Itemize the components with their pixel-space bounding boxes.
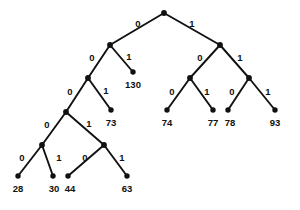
leaf-value-label: 30 xyxy=(49,184,60,194)
edge-bit-label: 0 xyxy=(89,53,94,63)
leaf-value-label: 93 xyxy=(270,118,281,128)
tree-edge xyxy=(220,45,249,78)
leaf-value-label: 74 xyxy=(162,118,173,128)
leaf-value-label: 44 xyxy=(65,184,76,194)
edge-bit-label: 0 xyxy=(135,19,140,29)
edge-bit-label: 0 xyxy=(169,87,174,97)
edge-bit-label: 1 xyxy=(126,52,131,62)
edge-bit-label: 1 xyxy=(237,53,242,63)
edge-bit-label: 1 xyxy=(56,153,61,163)
edge-bit-label: 1 xyxy=(189,19,194,29)
leaf-value-label: 78 xyxy=(225,118,236,128)
tree-leaf-node xyxy=(108,107,113,112)
leaf-value-label: 63 xyxy=(122,184,133,194)
tree-leaf-node xyxy=(225,107,230,112)
edge-bit-label: 1 xyxy=(103,86,108,96)
tree-leaf-node xyxy=(210,107,215,112)
tree-internal-node xyxy=(85,75,91,81)
tree-leaf-node xyxy=(164,107,169,112)
leaf-value-label: 130 xyxy=(125,80,141,90)
leaf-value-label: 28 xyxy=(13,184,24,194)
tree-internal-node xyxy=(101,142,107,148)
tree-leaf-node xyxy=(124,173,129,178)
tree-graphics xyxy=(0,0,300,210)
edge-bit-label: 1 xyxy=(86,119,91,129)
tree-edge xyxy=(249,78,275,110)
tree-internal-node xyxy=(246,75,252,81)
tree-leaf-node xyxy=(15,173,20,178)
edge-bit-label: 0 xyxy=(197,53,202,63)
tree-internal-node xyxy=(217,42,223,48)
edge-bit-label: 1 xyxy=(204,87,209,97)
edge-bit-label: 0 xyxy=(19,153,24,163)
tree-leaf-node xyxy=(50,173,55,178)
edge-bit-label: 1 xyxy=(265,87,270,97)
tree-leaf-node xyxy=(272,107,277,112)
edge-bit-label: 0 xyxy=(229,87,234,97)
edge-bit-label: 0 xyxy=(44,120,49,130)
tree-edge xyxy=(66,112,104,145)
edge-bit-label: 1 xyxy=(119,153,124,163)
tree-edge xyxy=(42,145,53,176)
tree-edge xyxy=(190,45,220,78)
binary-tree-figure: 010101010101010101 130737477789328304463 xyxy=(0,0,300,210)
tree-internal-node xyxy=(161,10,167,16)
leaf-value-label: 77 xyxy=(208,118,219,128)
tree-leaf-node xyxy=(130,69,135,74)
edge-bit-label: 0 xyxy=(82,153,87,163)
tree-leaf-node xyxy=(65,173,70,178)
tree-internal-node xyxy=(39,142,45,148)
edge-bit-label: 0 xyxy=(67,87,72,97)
tree-internal-node xyxy=(107,42,113,48)
leaf-value-label: 73 xyxy=(106,118,117,128)
tree-internal-node xyxy=(187,75,193,81)
tree-internal-node xyxy=(63,109,69,115)
